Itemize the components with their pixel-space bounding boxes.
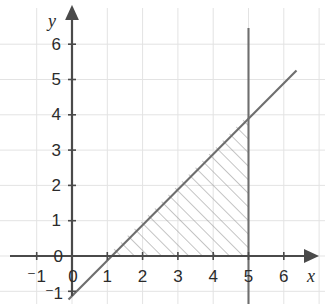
x-tick-label-neg1: ⁻1 bbox=[27, 267, 45, 286]
y-tick-label-5: 5 bbox=[52, 70, 61, 89]
figure-background bbox=[0, 0, 325, 304]
x-tick-label-4: 4 bbox=[208, 267, 217, 286]
x-axis-label: x bbox=[306, 266, 315, 286]
y-tick-label-neg1: ⁻1 bbox=[45, 284, 63, 303]
y-tick-label-3: 3 bbox=[52, 141, 61, 160]
x-tick-label-5: 5 bbox=[244, 267, 253, 286]
x-tick-label-1: 1 bbox=[103, 267, 112, 286]
x-tick-label-3: 3 bbox=[173, 267, 182, 286]
x-tick-label-0: 0 bbox=[68, 267, 77, 286]
y-tick-label-2: 2 bbox=[52, 176, 61, 195]
y-tick-label-1: 1 bbox=[52, 211, 61, 230]
y-tick-label-4: 4 bbox=[52, 105, 61, 124]
x-tick-label-6: 6 bbox=[279, 267, 288, 286]
y-tick-label-0: 0 bbox=[54, 247, 63, 266]
graph-svg: 6 5 4 3 2 1 0 ⁻1 ⁻1 0 1 2 3 4 5 6 y x bbox=[0, 0, 325, 304]
coordinate-plane-figure: 6 5 4 3 2 1 0 ⁻1 ⁻1 0 1 2 3 4 5 6 y x bbox=[0, 0, 325, 304]
y-tick-label-6: 6 bbox=[52, 35, 61, 54]
y-axis-label: y bbox=[46, 11, 56, 31]
x-tick-label-2: 2 bbox=[138, 267, 147, 286]
